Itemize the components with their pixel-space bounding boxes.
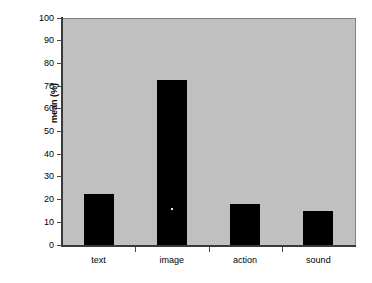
y-axis-tick-label: 90	[28, 36, 54, 45]
y-axis-tick-mark	[57, 18, 62, 19]
y-axis-tick-label: 40	[28, 150, 54, 159]
x-axis-category-label-action: action	[215, 255, 275, 266]
y-axis-tick-mark	[57, 222, 62, 223]
bar-sound	[303, 211, 333, 246]
bar-action	[230, 204, 260, 246]
y-axis-tick-mark	[57, 199, 62, 200]
y-axis-tick-label: 100	[28, 14, 54, 23]
y-axis-tick-mark	[57, 176, 62, 177]
plot-area	[62, 18, 356, 246]
y-axis-tick-mark	[57, 154, 62, 155]
y-axis-tick-label: 20	[28, 195, 54, 204]
x-axis-tick-mark	[282, 247, 283, 252]
bar-chart: 0102030405060708090100 mean (%) textimag…	[0, 0, 372, 283]
bar-text	[84, 194, 114, 246]
y-axis-tick-label: 30	[28, 172, 54, 181]
y-axis-tick-mark	[57, 245, 62, 246]
y-axis-tick-label: 10	[28, 218, 54, 227]
y-axis-tick-mark	[57, 40, 62, 41]
bar-image	[157, 80, 187, 246]
x-axis-tick-mark	[135, 247, 136, 252]
x-axis-tick-mark	[209, 247, 210, 252]
y-axis-title: mean (%)	[47, 63, 61, 143]
y-axis-tick-label: 0	[28, 241, 54, 250]
bar-artifact-speck	[171, 208, 173, 210]
x-axis-category-label-sound: sound	[288, 255, 348, 266]
x-axis-category-label-text: text	[69, 255, 129, 266]
x-axis-category-label-image: image	[142, 255, 202, 266]
